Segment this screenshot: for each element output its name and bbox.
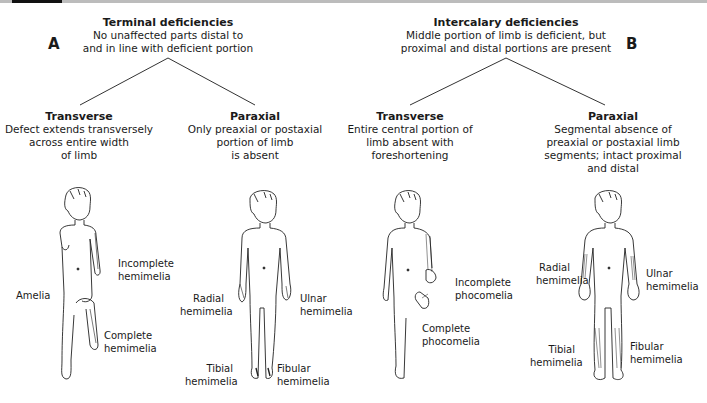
label-line: Incomplete	[455, 277, 513, 290]
label-complete-hemimelia: Complete hemimelia	[104, 330, 157, 355]
label-line: hemimelia	[536, 275, 570, 288]
intercalary-paraxial-block: Paraxial Segmental absence of preaxial o…	[533, 110, 693, 175]
label-line: Radial	[536, 262, 570, 275]
label-line: hemimelia	[185, 376, 233, 389]
branch-line: foreshortening	[340, 149, 480, 162]
label-line: phocomelia	[422, 336, 480, 349]
label-complete-phocomelia: Complete phocomelia	[422, 323, 480, 348]
branch-title: Transverse	[340, 110, 480, 123]
label-line: phocomelia	[455, 290, 513, 303]
child-figure-terminal-paraxial-illustration	[220, 188, 310, 388]
label-incomplete-hemimelia: Incomplete hemimelia	[118, 258, 174, 283]
label-amelia: Amelia	[16, 290, 50, 303]
branch-line: limb absent with	[340, 136, 480, 149]
child-figure-amelia-illustration	[40, 185, 120, 390]
label-tibial-hemimelia: Tibial hemimelia	[185, 363, 233, 388]
branch-line: is absent	[180, 149, 330, 162]
label-line: Complete	[422, 323, 480, 336]
tree-b-connector	[410, 58, 605, 105]
label-line: hemimelia	[118, 271, 174, 284]
label-line: hemimelia	[104, 343, 157, 356]
intercalary-transverse-block: Transverse Entire central portion of lim…	[340, 110, 480, 162]
terminal-transverse-block: Transverse Defect extends transversely a…	[0, 110, 158, 162]
branch-line: Entire central portion of	[340, 123, 480, 136]
branch-title: Paraxial	[180, 110, 330, 123]
branch-line: Segmental absence of	[533, 123, 693, 136]
label-line: Radial	[180, 293, 224, 306]
label-line: Tibial	[185, 363, 233, 376]
terminal-paraxial-block: Paraxial Only preaxial or postaxial port…	[180, 110, 330, 162]
label-line: hemimelia	[630, 354, 683, 367]
branch-line: portion of limb	[180, 136, 330, 149]
label-line: hemimelia	[277, 376, 330, 389]
label-radial-hemimelia: Radial hemimelia	[180, 293, 224, 318]
label-ulnar-hemimelia-b: Ulnar hemimelia	[646, 268, 699, 293]
label-fibular-hemimelia-b: Fibular hemimelia	[630, 341, 683, 366]
label-line: Incomplete	[118, 258, 174, 271]
branch-line: segments; intact proximal	[533, 149, 693, 162]
branch-line: of limb	[0, 149, 158, 162]
tree-a-connector	[80, 58, 255, 105]
label-line: Ulnar	[300, 293, 353, 306]
label-line: Fibular	[277, 363, 330, 376]
label-line: Tibial	[530, 344, 575, 357]
label-line: hemimelia	[646, 281, 699, 294]
branch-line: across entire width	[0, 136, 158, 149]
label-line: Ulnar	[646, 268, 699, 281]
label-line: hemimelia	[530, 357, 575, 370]
branch-line: preaxial or postaxial limb	[533, 136, 693, 149]
label-radial-hemimelia-b: Radial hemimelia	[536, 262, 570, 287]
child-figure-phocomelia-illustration	[370, 188, 450, 388]
label-incomplete-phocomelia: Incomplete phocomelia	[455, 277, 513, 302]
branch-title: Paraxial	[533, 110, 693, 123]
label-line: Fibular	[630, 341, 683, 354]
branch-line: Defect extends transversely	[0, 123, 158, 136]
label-line: Complete	[104, 330, 157, 343]
label-fibular-hemimelia: Fibular hemimelia	[277, 363, 330, 388]
label-line: hemimelia	[300, 306, 353, 319]
branch-title: Transverse	[0, 110, 158, 123]
label-ulnar-hemimelia: Ulnar hemimelia	[300, 293, 353, 318]
label-tibial-hemimelia-b: Tibial hemimelia	[530, 344, 575, 369]
branch-line: Only preaxial or postaxial	[180, 123, 330, 136]
branch-line: and distal	[533, 162, 693, 175]
label-line: hemimelia	[180, 306, 224, 319]
